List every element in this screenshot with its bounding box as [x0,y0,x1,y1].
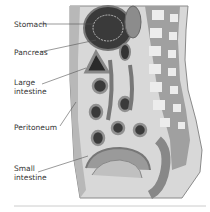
pancreas [125,6,141,38]
label-peritoneum: Peritoneum [14,123,57,132]
label-pancreas: Pancreas [14,48,48,57]
label-large-intestine-line2: intestine [14,87,47,96]
label-small-intestine-line1: Small [14,164,35,173]
label-small-intestine-line2: intestine [14,173,47,182]
label-stomach: Stomach [14,20,47,29]
label-large-intestine-line1: Large [14,78,35,87]
